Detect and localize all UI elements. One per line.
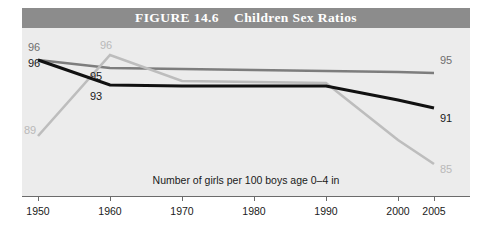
chart-plot-area: 96 96 89 96 95 93 95 91 85 Number of gir… <box>22 28 470 196</box>
x-axis-label-1990: 1990 <box>314 205 337 217</box>
x-axis-label-1970: 1970 <box>170 205 193 217</box>
value-label-western-europe-2005: 95 <box>440 55 452 66</box>
x-axis-tick-mark <box>38 196 39 201</box>
value-label-india-1960: 93 <box>90 91 102 102</box>
chart-lines-svg <box>22 28 470 196</box>
x-axis-tick-mark <box>182 196 183 201</box>
figure-container: FIGURE 14.6 Children Sex Ratios 96 96 89… <box>0 0 491 229</box>
chart-caption: Number of girls per 100 boys age 0–4 in <box>22 174 470 186</box>
value-label-india-1950: 96 <box>28 58 40 69</box>
x-axis-label-1980: 1980 <box>242 205 265 217</box>
x-axis-tick-mark <box>398 196 399 201</box>
x-axis-tick-mark <box>254 196 255 201</box>
figure-title: FIGURE 14.6 Children Sex Ratios <box>135 11 357 25</box>
figure-title-bar: FIGURE 14.6 Children Sex Ratios <box>22 8 470 28</box>
x-axis-label-2000: 2000 <box>386 205 409 217</box>
x-axis-label-1950: 1950 <box>26 205 49 217</box>
value-label-india-2005: 91 <box>440 113 452 124</box>
chart-x-axis: 1950 1960 1970 1980 1990 2000 2005 <box>22 196 470 229</box>
x-axis-line <box>22 196 470 197</box>
x-axis-tick-mark <box>110 196 111 201</box>
x-axis-label-2005: 2005 <box>422 205 445 217</box>
value-label-western-europe-1950: 96 <box>28 42 40 53</box>
value-label-china-1950: 89 <box>24 125 36 136</box>
value-label-china-1960: 96 <box>100 40 112 51</box>
x-axis-tick-mark <box>434 196 435 201</box>
x-axis-label-1960: 1960 <box>98 205 121 217</box>
x-axis-tick-mark <box>326 196 327 201</box>
value-label-western-europe-1960: 95 <box>90 71 102 82</box>
